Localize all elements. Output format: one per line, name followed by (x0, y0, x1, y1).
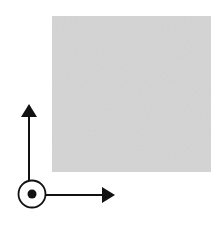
origin-dot-icon (28, 190, 37, 199)
right-arrowhead-icon (102, 187, 115, 203)
gray-square-texture (52, 16, 211, 172)
coordinate-diagram (0, 0, 221, 225)
up-arrowhead-icon (21, 104, 37, 117)
